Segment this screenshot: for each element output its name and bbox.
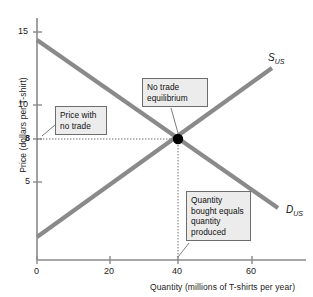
demand-curve-label: DUS (286, 204, 303, 217)
x-tick-label-40: 40 (172, 266, 182, 276)
x-tick-label-60: 60 (246, 266, 256, 276)
y-tick-label-10: 10 (18, 99, 28, 109)
supply-demand-chart: Price (dollars per T-shirt) Quantity (mi… (0, 0, 313, 297)
leader-line-price-with-no-trade (42, 125, 55, 136)
leader-line-quantity-bought (178, 243, 189, 257)
supply-curve-label-main: S (268, 52, 275, 63)
annotation-no-trade-equilibrium: No trade equilibrium (142, 78, 208, 107)
leader-line-no-trade-equilibrium (171, 108, 178, 133)
y-tick-label-5: 5 (25, 176, 30, 186)
supply-curve-label: SUS (268, 52, 284, 65)
x-tick-label-20: 20 (104, 266, 114, 276)
supply-curve-label-sub: US (275, 58, 285, 65)
y-tick-label-8: 8 (25, 133, 30, 143)
y-tick-label-15: 15 (18, 26, 28, 36)
demand-curve-label-sub: US (293, 210, 303, 217)
equilibrium-point-marker (173, 134, 183, 144)
plot-area (0, 0, 313, 297)
x-axis-title: Quantity (millions of T-shirts per year) (150, 282, 295, 292)
annotation-price-with-no-trade: Price with no trade (55, 106, 107, 135)
annotation-quantity-bought-equals-quantity-produced: Quantity bought equals quantity produced (186, 191, 251, 241)
x-tick-label-0: 0 (34, 266, 39, 276)
